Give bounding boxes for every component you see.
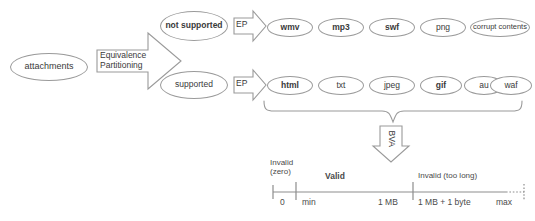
leaf-corrupt-contents[interactable]: corrupt contents	[470, 18, 530, 37]
node-supported[interactable]: supported	[160, 71, 228, 99]
node-not-supported-label: not supported	[165, 21, 222, 30]
node-attachments-label: attachments	[24, 62, 73, 72]
partition-label-valid: Valid	[325, 172, 345, 182]
leaf-mp3-label: mp3	[332, 23, 349, 32]
diagram-canvas: attachments Equivalence Partitioning not…	[0, 0, 535, 221]
tick-label-1mb: 1 MB	[378, 198, 398, 208]
node-attachments[interactable]: attachments	[10, 53, 88, 81]
leaf-png-label: png	[436, 23, 450, 32]
number-line: Invalid (zero) Valid Invalid (too long) …	[268, 160, 530, 216]
tick-label-min: min	[302, 198, 316, 208]
tick-label-zero: 0	[280, 198, 285, 208]
grouping-brace	[262, 100, 524, 124]
node-not-supported[interactable]: not supported	[160, 11, 228, 41]
leaf-au-label: au	[479, 81, 488, 90]
leaf-swf[interactable]: swf	[369, 18, 415, 37]
leaf-txt[interactable]: txt	[318, 76, 364, 95]
leaf-corrupt-contents-label: corrupt contents	[473, 23, 527, 31]
partition-label-invalid-too-long: Invalid (too long)	[418, 172, 477, 181]
leaf-html[interactable]: html	[267, 76, 313, 95]
tick-label-1mb-plus-1-byte: 1 MB + 1 byte	[418, 198, 471, 208]
leaf-mp3[interactable]: mp3	[318, 18, 364, 37]
leaf-txt-label: txt	[337, 81, 346, 90]
bva-arrow-label: BVA	[386, 129, 396, 149]
leaf-gif-label: gif	[436, 81, 446, 90]
tick-label-max: max	[496, 198, 512, 208]
leaf-png[interactable]: png	[420, 18, 466, 37]
leaf-gif[interactable]: gif	[420, 76, 462, 95]
leaf-waf-label: waf	[504, 81, 517, 90]
leaf-waf[interactable]: waf	[490, 76, 532, 95]
bva-arrow[interactable]: BVA	[371, 125, 411, 163]
ep-arrow-not-supported[interactable]: EP	[233, 10, 267, 42]
leaf-swf-label: swf	[385, 23, 399, 32]
node-supported-label: supported	[175, 80, 213, 89]
leaf-html-label: html	[281, 81, 299, 90]
leaf-wmv[interactable]: wmv	[267, 18, 313, 37]
leaf-jpeg-label: jpeg	[384, 81, 400, 90]
leaf-jpeg[interactable]: jpeg	[369, 76, 415, 95]
equivalence-partitioning-arrow-label: Equivalence Partitioning	[100, 51, 150, 70]
ep-arrow-not-supported-label: EP	[236, 20, 247, 30]
ep-arrow-supported[interactable]: EP	[233, 69, 267, 101]
ep-arrow-supported-label: EP	[236, 79, 247, 89]
partition-label-invalid-zero: Invalid (zero)	[270, 159, 293, 177]
leaf-wmv-label: wmv	[281, 23, 300, 32]
